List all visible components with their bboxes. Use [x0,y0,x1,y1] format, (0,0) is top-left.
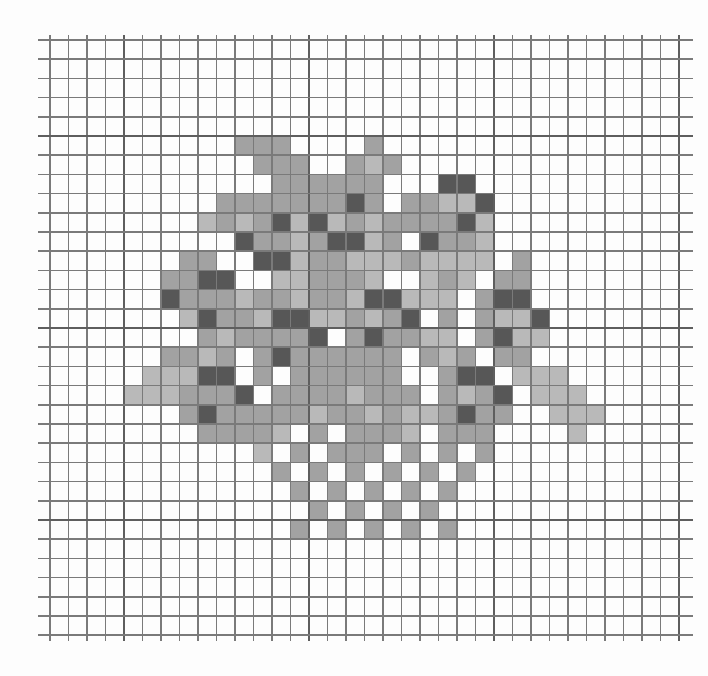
grid-line-horizontal [38,346,693,348]
shaded-cell [457,251,476,271]
shaded-cell [291,366,310,386]
shaded-cell [383,366,402,386]
grid-line-vertical [475,35,477,641]
shaded-cell [365,309,384,329]
shaded-cell [420,290,439,310]
shaded-cell [439,232,458,252]
shaded-cell [457,462,476,482]
grid-line-vertical [549,35,551,641]
shaded-cell [328,347,347,367]
shaded-cell [328,194,347,214]
shaded-cell [476,251,495,271]
shaded-cell [513,347,532,367]
grid-line-horizontal [38,404,693,406]
shaded-cell [328,482,347,502]
major-grid-line-vertical [493,35,495,641]
shaded-cell [346,194,365,214]
shaded-cell [198,270,217,290]
grid-line-vertical [86,35,88,641]
shaded-cell [217,213,236,233]
shaded-cell [439,270,458,290]
shaded-cell [383,386,402,406]
grid-line-horizontal [38,481,693,483]
shaded-cell [328,251,347,271]
shaded-cell [457,213,476,233]
shaded-cell [272,386,291,406]
shaded-cell [365,443,384,463]
grid-line-vertical [641,35,643,641]
shaded-cell [254,251,273,271]
major-grid-line-vertical [308,35,310,641]
shaded-cell [309,251,328,271]
shaded-cell [402,520,421,540]
shaded-cell [383,347,402,367]
shaded-cell [309,309,328,329]
shaded-cell [198,405,217,425]
shaded-cell [402,482,421,502]
shaded-cell [439,405,458,425]
shaded-cell [272,155,291,175]
shaded-cell [550,405,569,425]
shaded-cell [309,232,328,252]
shaded-cell [309,347,328,367]
shaded-cell [439,386,458,406]
grid-line-horizontal [38,39,693,41]
shaded-cell [143,386,162,406]
shaded-cell [217,366,236,386]
shaded-cell [531,309,550,329]
shaded-cell [217,386,236,406]
shaded-cell [402,405,421,425]
shaded-cell [365,270,384,290]
grid-line-horizontal [38,78,693,80]
shaded-cell [568,386,587,406]
shaded-cell [291,290,310,310]
grid-line-vertical [271,35,273,641]
shaded-cell [291,520,310,540]
shaded-cell [383,155,402,175]
shaded-cell [291,328,310,348]
shaded-cell [180,290,199,310]
shaded-cell [402,213,421,233]
shaded-cell [494,405,513,425]
shaded-cell [309,174,328,194]
shaded-cell [420,501,439,521]
grid-line-horizontal [38,462,693,464]
shaded-cell [198,290,217,310]
shaded-cell [328,443,347,463]
shaded-cell [254,290,273,310]
shaded-cell [346,347,365,367]
shaded-cell [383,424,402,444]
shaded-cell [346,501,365,521]
grid-line-vertical [382,35,384,641]
grid-line-horizontal [38,442,693,444]
shaded-cell [272,424,291,444]
shaded-cell [365,347,384,367]
shaded-cell [531,366,550,386]
shaded-cell [161,347,180,367]
shaded-cell [291,482,310,502]
grid-line-vertical [49,35,51,641]
shaded-cell [254,194,273,214]
shaded-cell [217,270,236,290]
shaded-cell [272,328,291,348]
shaded-cell [383,213,402,233]
shaded-cell [420,270,439,290]
shaded-cell [365,520,384,540]
shaded-cell [439,520,458,540]
shaded-cell [476,405,495,425]
grid-line-vertical [438,35,440,641]
shaded-cell [476,309,495,329]
grid-line-horizontal [38,500,693,502]
shaded-cell [291,405,310,425]
grid-line-horizontal [38,97,693,99]
shaded-cell [328,174,347,194]
shaded-cell [365,194,384,214]
shaded-cell [272,270,291,290]
shaded-cell [402,443,421,463]
shaded-cell [346,462,365,482]
shaded-cell [457,194,476,214]
shaded-cell [439,174,458,194]
shaded-cell [365,424,384,444]
grid-line-vertical [68,35,70,641]
shaded-cell [328,309,347,329]
